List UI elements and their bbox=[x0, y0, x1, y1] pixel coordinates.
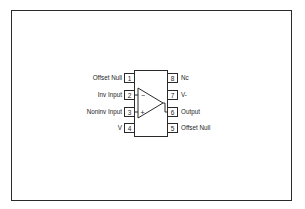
pin-3-label: Noninv Input bbox=[87, 108, 123, 116]
pin-5-label: Offset Null bbox=[181, 124, 210, 131]
pin-2: 2 Inv Input bbox=[98, 91, 135, 100]
pin-2-number: 2 bbox=[128, 92, 132, 99]
pin-2-label: Inv Input bbox=[98, 91, 122, 99]
pin-4-number: 4 bbox=[128, 125, 132, 132]
pin-4: 4 V bbox=[118, 124, 135, 133]
pin-5: 5 Offset Null bbox=[168, 124, 211, 133]
pin-6: 6 Output bbox=[168, 108, 201, 117]
pin-4-label: V bbox=[118, 124, 123, 131]
noninverting-sign: + bbox=[141, 109, 145, 116]
pin-7: 7 V- bbox=[168, 91, 187, 100]
output-trace bbox=[163, 103, 168, 112]
pin-1-number: 1 bbox=[128, 75, 132, 82]
pin-3-number: 3 bbox=[128, 109, 132, 116]
opamp-pinout-diagram: 1 Offset Null 2 Inv Input 3 Noninv Input… bbox=[0, 0, 305, 209]
pin-5-number: 5 bbox=[171, 125, 175, 132]
pin-1-label: Offset Null bbox=[93, 74, 122, 81]
pin-6-number: 6 bbox=[171, 109, 175, 116]
pin-6-label: Output bbox=[181, 108, 200, 116]
pin-1: 1 Offset Null bbox=[93, 74, 135, 83]
pin-3: 3 Noninv Input bbox=[87, 108, 135, 117]
pin-8-label: Nc bbox=[181, 74, 189, 81]
inverting-sign: − bbox=[141, 92, 145, 99]
pin-7-label: V- bbox=[181, 91, 187, 98]
pin-8: 8 Nc bbox=[168, 74, 189, 83]
pin-8-number: 8 bbox=[171, 75, 175, 82]
opamp-symbol: − + bbox=[135, 88, 168, 118]
pin-7-number: 7 bbox=[171, 92, 175, 99]
